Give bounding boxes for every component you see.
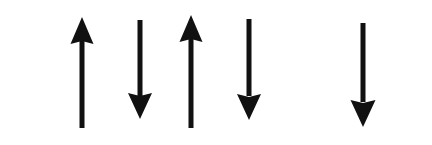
spin-diagram-figure: [0, 0, 432, 145]
arrow-shaft: [80, 36, 85, 128]
figure-background: [0, 0, 432, 145]
arrow-shaft: [189, 34, 194, 128]
arrow-shaft: [247, 19, 252, 96]
arrow-canvas: [0, 0, 432, 145]
arrow-shaft: [138, 20, 143, 96]
arrow-shaft: [361, 23, 366, 102]
